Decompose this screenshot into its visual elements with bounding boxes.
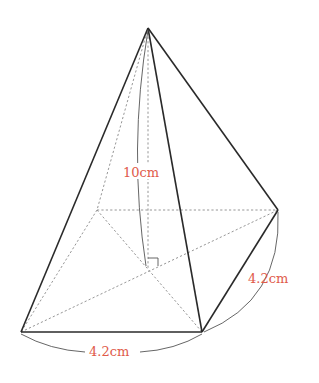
height-label: 10cm: [123, 165, 159, 180]
right-angle-mark: [148, 258, 158, 266]
visible-edges: [21, 28, 278, 332]
edge-apex-back-right: [148, 28, 278, 210]
edge-apex-front-left: [21, 28, 148, 332]
hidden-edges: [21, 28, 278, 332]
front-edge-dimension-arc-right: [140, 334, 202, 352]
front-edge-dimension-arc-left: [21, 334, 85, 352]
right-edge-label: 4.2cm: [248, 271, 288, 286]
edge-apex-front-right: [148, 28, 202, 332]
hidden-lateral-edge: [97, 28, 148, 210]
hidden-base-diagonal-2: [97, 210, 202, 332]
height-dimension-arc: [137, 30, 148, 266]
hidden-base-left-edge: [21, 210, 97, 332]
front-edge-label: 4.2cm: [89, 344, 129, 359]
pyramid-diagram: 10cm 4.2cm 4.2cm: [0, 0, 319, 383]
